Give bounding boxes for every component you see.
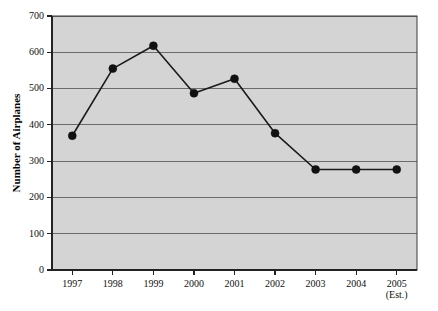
y-tick-label: 700 xyxy=(29,10,44,21)
y-axis-title: Number of Airplanes xyxy=(10,93,22,193)
x-tick-label: 2001 xyxy=(225,278,245,289)
data-point-marker xyxy=(149,42,157,50)
x-tick-label: 2002 xyxy=(265,278,285,289)
x-tick-label: 2004 xyxy=(346,278,366,289)
y-tick-label: 0 xyxy=(39,264,44,275)
data-point-marker xyxy=(271,129,279,137)
y-tick-label: 300 xyxy=(29,155,44,166)
line-chart: 0100200300400500600700 19971998199920002… xyxy=(0,0,438,311)
y-tick-label: 100 xyxy=(29,228,44,239)
x-tick-label: 2005 xyxy=(387,278,407,289)
x-tick-label: 2000 xyxy=(184,278,204,289)
x-tick-label: 1997 xyxy=(62,278,82,289)
data-point-marker xyxy=(393,165,401,173)
chart-canvas: 0100200300400500600700 19971998199920002… xyxy=(0,0,438,311)
data-point-marker xyxy=(190,89,198,97)
data-point-marker xyxy=(68,132,76,140)
data-point-marker xyxy=(231,75,239,83)
x-tick-label: 2003 xyxy=(306,278,326,289)
y-tick-label: 500 xyxy=(29,82,44,93)
data-point-marker xyxy=(352,165,360,173)
data-point-marker xyxy=(312,165,320,173)
y-tick-label: 400 xyxy=(29,119,44,130)
x-tick-sublabel: (Est.) xyxy=(386,289,408,301)
y-tick-label: 600 xyxy=(29,46,44,57)
y-tick-labels: 0100200300400500600700 xyxy=(29,10,52,275)
x-tick-labels: 199719981999200020012002200320042005(Est… xyxy=(62,270,407,301)
x-tick-label: 1998 xyxy=(103,278,123,289)
x-tick-label: 1999 xyxy=(143,278,163,289)
data-point-marker xyxy=(109,65,117,73)
y-axis-title-text: Number of Airplanes xyxy=(10,93,22,193)
y-tick-label: 200 xyxy=(29,191,44,202)
plot-area-background xyxy=(52,16,417,270)
